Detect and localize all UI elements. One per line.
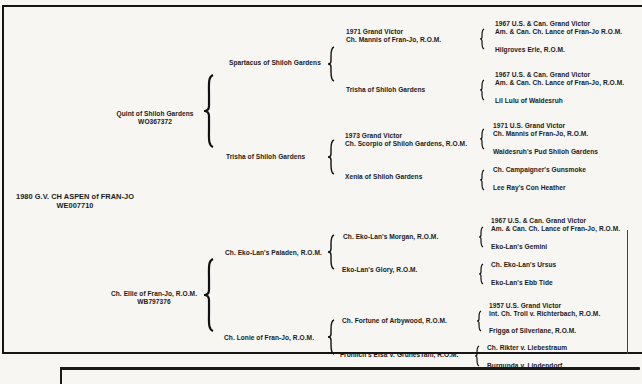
dam-sire-name: Ch. Eko-Lan's Paladen, R.O.M. (225, 249, 322, 257)
g3-fortune: Ch. Fortune of Arbywood, R.O.M. (342, 317, 447, 325)
g4-gemini: Eko-Lan's Gemini (491, 243, 547, 251)
next-box-left-edge (60, 367, 62, 384)
sire-name: Quint of Shiloh Gardens (100, 110, 210, 118)
subject-dog: 1980 G.V. CH ASPEN of FRAN-JO WE007710 (12, 193, 138, 210)
mannis-brace (479, 28, 485, 50)
spartacus-brace (327, 46, 335, 82)
g3-scorpio-name: Ch. Scorpio of Shiloh Gardens, R.O.M. (345, 140, 467, 148)
pud-brace (479, 79, 485, 101)
dam-dam-name: Ch. Lonie of Fran-Jo, R.O.M. (224, 334, 314, 342)
dam: Ch. Ellie of Fran-Jo, R.O.M. WB797376 (98, 290, 210, 306)
g4-lance-1-name: Am. & Can. Ch. Lance of Fran-Jo R.O.M. (495, 28, 622, 36)
g4-ebb-tide: Eko-Lan's Ebb Tide (491, 279, 553, 287)
g3-xenia: Xenia of Shiloh Gardens (345, 173, 422, 181)
g4-troll: 1957 U.S. Grand Victor Int. Ch. Troll v.… (489, 302, 600, 318)
g4-mannis: 1971 U.S. Grand Victor Ch. Mannis of Fra… (493, 122, 588, 138)
trisha-brace (327, 139, 335, 175)
sire-dam-name: Trisha of Shiloh Gardens (226, 153, 305, 161)
g4-frigga: Frigga of Silverlane, R.O.M. (489, 327, 576, 335)
g4-troll-name: Int. Ch. Troll v. Richterbach, R.O.M. (489, 310, 600, 318)
dam-name: Ch. Ellie of Fran-Jo, R.O.M. (98, 290, 210, 298)
g4-lance-3-name: Am. & Can. Ch. Lance of Fran-Jo, R.O.M. (491, 225, 620, 233)
sire-registration: WO367372 (100, 118, 210, 126)
g4-lance-2: 1967 U.S. & Can. Grand Victor Am. & Can.… (495, 71, 624, 87)
dam-brace (203, 258, 215, 332)
paladen-brace (327, 234, 335, 270)
g4-lee-ray: Lee Ray's Con Heather (493, 184, 566, 192)
sire-sire-name: Spartacus of Shiloh Gardens (229, 59, 321, 67)
g3-morgan: Ch. Eko-Lan's Morgan, R.O.M. (343, 233, 438, 241)
dam-registration: WB797376 (98, 298, 210, 306)
g4-lance-1-title: 1967 U.S. & Can. Grand Victor (495, 20, 622, 28)
g3-waldesruh-pud: Trisha of Shiloh Gardens (346, 86, 425, 94)
g4-lil-lulu: Lil Lulu of Waldesruh (495, 97, 563, 105)
g4-mannis-name: Ch. Mannis of Fran-Jo, R.O.M. (493, 130, 588, 138)
scorpio-brace (479, 128, 485, 150)
g3-mannis: 1971 Grand Victor Ch. Mannis of Fran-Jo,… (346, 28, 441, 44)
fortune-brace (476, 310, 482, 332)
g3-elsa: Frohlich's Elsa V. GrunesTahl, R.O.M. (340, 351, 458, 359)
frame-right-edge (627, 230, 628, 354)
g3-scorpio: 1973 Grand Victor Ch. Scorpio of Shiloh … (345, 132, 467, 148)
g4-waldesruh-pud: Waldesruh's Pud Shiloh Gardens (493, 148, 598, 156)
g4-lance-3-title: 1967 U.S. & Can. Grand Victor (491, 217, 620, 225)
xenia-brace (479, 169, 485, 191)
sire-brace (203, 74, 215, 148)
g3-mannis-name: Ch. Mannis of Fran-Jo, R.O.M. (346, 36, 441, 44)
lonie-brace (327, 319, 335, 355)
g3-scorpio-title: 1973 Grand Victor (345, 132, 467, 140)
subject-registration: WE007710 (12, 202, 138, 211)
g4-burgunda: Burgunda v. Lindendorf (487, 362, 562, 370)
morgan-brace (478, 226, 484, 248)
g4-hilgroves-erle: Hilgroves Erle, R.O.M. (495, 46, 565, 54)
g3-glory: Eko-Lan's Glory, R.O.M. (342, 266, 418, 274)
g4-rikter: Ch. Rikter v. Liebestraum (487, 344, 567, 352)
g4-lance-3: 1967 U.S. & Can. Grand Victor Am. & Can.… (491, 217, 620, 233)
sire: Quint of Shiloh Gardens WO367372 (100, 110, 210, 126)
g3-mannis-title: 1971 Grand Victor (346, 28, 441, 36)
glory-brace (478, 263, 484, 285)
elsa-brace (474, 345, 480, 367)
g4-ursus: Ch. Eko-Lan's Ursus (491, 261, 556, 269)
g4-lance-2-title: 1967 U.S. & Can. Grand Victor (495, 71, 624, 79)
g4-lance-1: 1967 U.S. & Can. Grand Victor Am. & Can.… (495, 20, 622, 36)
g4-troll-title: 1957 U.S. Grand Victor (489, 302, 600, 310)
g4-gunsmoke: Ch. Campaigner's Gunsmoke (493, 166, 586, 174)
g4-lance-2-name: Am. & Can. Ch. Lance of Fran-Jo, R.O.M. (495, 79, 624, 87)
g4-mannis-title: 1971 U.S. Grand Victor (493, 122, 588, 130)
